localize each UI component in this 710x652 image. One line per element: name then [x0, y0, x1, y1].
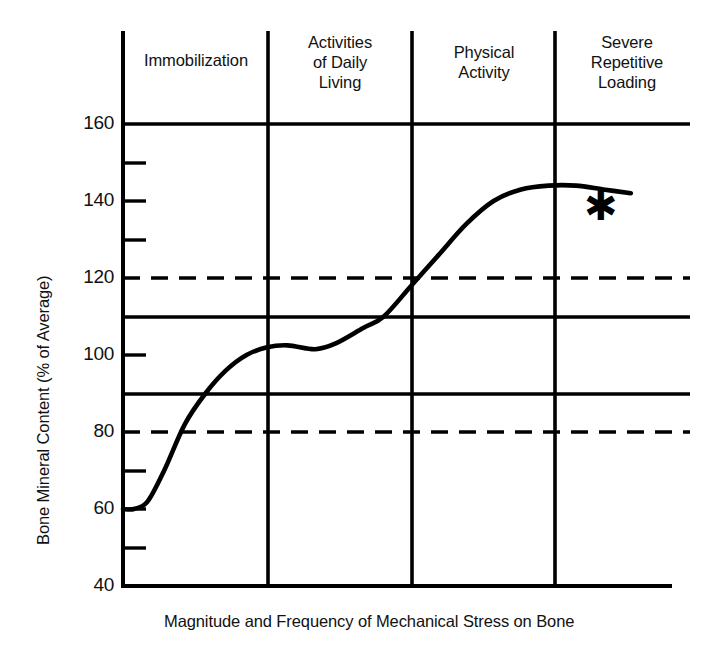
- band-dividers: [268, 31, 555, 586]
- ytick-label-120: 120: [52, 266, 114, 288]
- asterisk-annotation-icon: ✱: [584, 186, 618, 226]
- gridlines-dashed: [123, 278, 690, 432]
- band-label-activities-of-daily-living: Activities of Daily Living: [272, 32, 408, 92]
- ytick-label-60: 60: [52, 497, 114, 519]
- ytick-label-80: 80: [52, 420, 114, 442]
- chart-plot-area: [0, 0, 710, 652]
- gridlines-solid: [123, 124, 690, 394]
- band-label-severe-repetitive-loading: Severe Repetitive Loading: [559, 32, 695, 92]
- ytick-label-100: 100: [52, 343, 114, 365]
- x-axis-title: Magnitude and Frequency of Mechanical St…: [164, 612, 574, 631]
- band-label-immobilization: Immobilization: [128, 50, 264, 70]
- band-label-physical-activity: Physical Activity: [416, 42, 552, 82]
- ytick-label-40: 40: [52, 574, 114, 596]
- ytick-label-160: 160: [52, 112, 114, 134]
- y-axis-title: Bone Mineral Content (% of Average): [34, 275, 53, 545]
- y-axis-ticks: [123, 163, 146, 548]
- bone-mineral-content-chart: Immobilization Activities of Daily Livin…: [0, 0, 710, 652]
- ytick-label-140: 140: [52, 189, 114, 211]
